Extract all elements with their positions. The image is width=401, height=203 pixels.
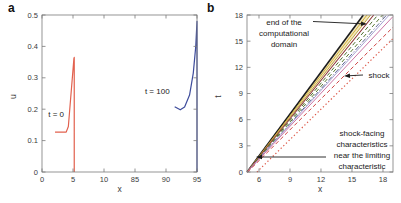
panel-a-letter: a bbox=[8, 1, 15, 15]
y-tick-label: 0.2 bbox=[28, 105, 38, 114]
shock-note-arrow-head bbox=[344, 73, 350, 77]
y-tick-label: 0 bbox=[34, 168, 38, 177]
y-tick-label: 18 bbox=[235, 11, 243, 20]
panel-b-xlabel: x bbox=[318, 184, 323, 194]
x-tick-label: 6 bbox=[257, 175, 261, 184]
x-tick-label: 12 bbox=[317, 175, 325, 184]
y-tick-label: 0.5 bbox=[28, 11, 38, 20]
x-tick-label: 0 bbox=[40, 175, 44, 184]
y-tick-label: 0.3 bbox=[28, 73, 38, 82]
x-tick-label: 18 bbox=[379, 175, 387, 184]
panel-b-ylabel: t bbox=[213, 95, 223, 98]
end-of-domain-note-arrow-shaft bbox=[313, 22, 361, 24]
x-tick-label: 9 bbox=[288, 175, 292, 184]
y-tick-label: 0.1 bbox=[28, 136, 38, 145]
y-tick-label: 9 bbox=[239, 89, 243, 98]
x-tick-label: 85 bbox=[131, 175, 139, 184]
limiting-characteristic-note: shock-facingcharacteristicsnear the limi… bbox=[334, 129, 390, 171]
profile-t100-label: t = 100 bbox=[145, 87, 170, 96]
x-tick-label: 15 bbox=[348, 175, 356, 184]
panel-b-letter: b bbox=[207, 1, 214, 15]
shock-note-arrow-shaft bbox=[350, 75, 363, 76]
figure-svg: t = 0t = 100051085909500.10.20.30.40.5xu… bbox=[0, 0, 401, 203]
y-tick-label: 0 bbox=[239, 168, 243, 177]
x-tick-label: 90 bbox=[162, 175, 170, 184]
panel-a-axes-box bbox=[42, 15, 197, 172]
y-tick-label: 3 bbox=[239, 141, 243, 150]
y-tick-label: 15 bbox=[235, 37, 243, 46]
x-tick-label: 5 bbox=[71, 175, 75, 184]
panel-a-ylabel: u bbox=[8, 94, 18, 99]
y-tick-label: 6 bbox=[239, 115, 243, 124]
profile-t100 bbox=[175, 21, 197, 172]
shock-note: shock bbox=[369, 71, 391, 80]
end-of-domain-note: end of thecomputationaldomain bbox=[259, 18, 309, 49]
y-tick-label: 0.4 bbox=[28, 42, 38, 51]
panel-a-xlabel: x bbox=[117, 184, 122, 194]
profile-t0-label: t = 0 bbox=[48, 110, 64, 119]
y-tick-label: 12 bbox=[235, 63, 243, 72]
x-tick-label: 95 bbox=[193, 175, 201, 184]
x-tick-label: 10 bbox=[100, 175, 108, 184]
figure-canvas: t = 0t = 100051085909500.10.20.30.40.5xu… bbox=[0, 0, 401, 203]
